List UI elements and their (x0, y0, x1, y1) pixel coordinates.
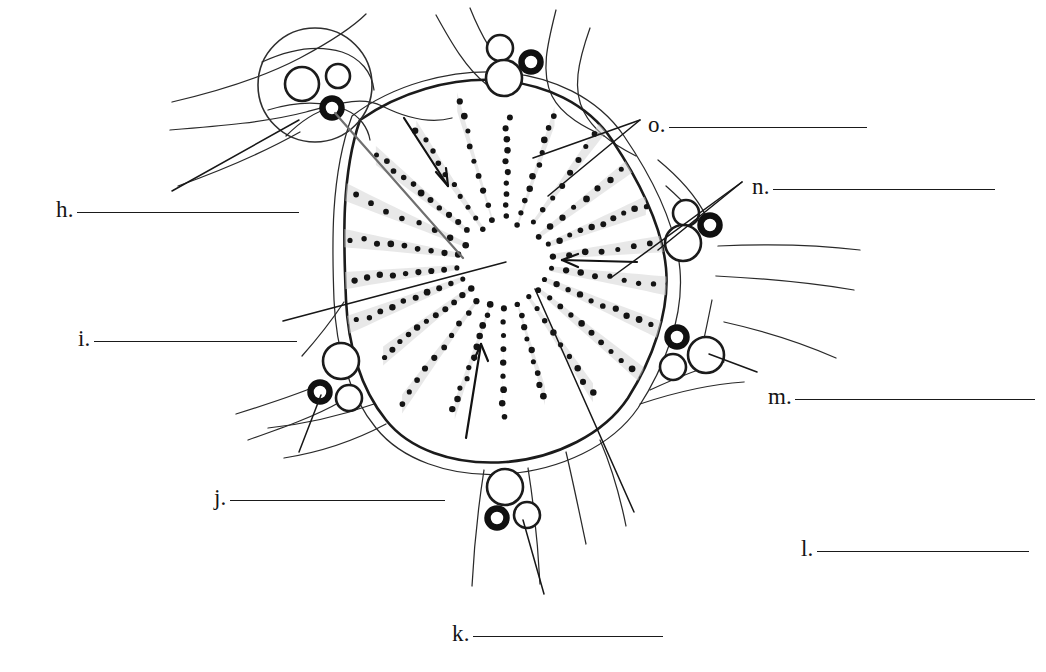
spoke-dot (427, 197, 433, 203)
spoke-dot (452, 182, 457, 187)
spoke-dot (601, 119, 607, 125)
answer-label-letter-k: k. (452, 622, 473, 645)
spoke-dot (504, 191, 510, 197)
spoke-dot (549, 266, 554, 271)
spoke-dot (441, 267, 447, 273)
answer-label-letter-h: h. (56, 198, 77, 221)
spoke-dot (633, 160, 639, 166)
spoke-dot (487, 301, 494, 308)
spoke-dot (503, 125, 509, 131)
spoke-dot (529, 347, 535, 353)
spoke-dot (451, 299, 457, 305)
spoke-dot (402, 243, 408, 249)
spoke-dot (636, 316, 643, 323)
spoke-dot (468, 285, 474, 291)
spoke-dot (526, 294, 531, 299)
spoke-dot (515, 302, 520, 307)
spoke-dot (629, 365, 636, 372)
spoke-dot (442, 306, 448, 312)
answer-label-letter-n: n. (752, 175, 773, 198)
spoke-dot (471, 159, 476, 164)
answer-blank-o[interactable] (669, 127, 867, 128)
spoke-dot (582, 248, 589, 255)
answer-label-letter-o: o. (648, 113, 669, 136)
answer-blank-j[interactable] (230, 500, 445, 501)
spoke-dot (479, 322, 486, 329)
spoke-dot (403, 271, 408, 276)
answer-label-letter-i: i. (78, 327, 94, 350)
spoke-dot (368, 200, 374, 206)
spoke-dot (583, 144, 588, 149)
spoke-dot (529, 173, 536, 180)
spoke-dot (397, 339, 402, 344)
spoke-dot (608, 349, 613, 354)
spoke-dot (648, 322, 653, 327)
spoke-dot (540, 393, 547, 400)
spoke-dot (466, 310, 472, 316)
spoke-dot (486, 202, 492, 208)
spoke-dot (501, 305, 507, 311)
spoke-haze (549, 196, 646, 247)
spoke-dot (600, 221, 606, 227)
spoke-dot (536, 234, 542, 240)
spoke-dot (454, 265, 459, 270)
spoke-dot (535, 370, 541, 376)
spoke-dot (389, 304, 395, 310)
spoke-dot (480, 226, 485, 231)
spoke-dot (547, 223, 554, 230)
spoke-dot (333, 235, 339, 241)
answer-blank-i[interactable] (94, 341, 297, 342)
spoke-dot (384, 158, 390, 164)
spoke-dot (571, 205, 576, 210)
spoke-dot (454, 396, 461, 403)
spoke-dot (457, 98, 463, 104)
spoke-dot (361, 236, 366, 241)
spoke-dot (339, 280, 345, 286)
answer-label-m: m. (768, 385, 1035, 408)
spoke-dot (364, 274, 370, 280)
spoke-dot (422, 365, 428, 371)
spoke-dot (567, 170, 573, 176)
answer-blank-h[interactable] (77, 212, 299, 213)
spoke-dot (367, 315, 372, 320)
spoke-dot (446, 212, 452, 218)
spoke-dot (460, 277, 465, 282)
spoke-dot (436, 160, 442, 166)
spoke-dot (503, 202, 508, 207)
spoke-dot (489, 217, 495, 223)
spoke-dot (465, 128, 470, 133)
spoke-dot (431, 355, 437, 361)
spoke-dot (563, 267, 569, 273)
spoke-dot (541, 137, 548, 144)
spoke-dot (449, 406, 455, 412)
answer-blank-l[interactable] (817, 551, 1029, 552)
spoke-dot (428, 248, 433, 253)
spoke-dot (567, 354, 572, 359)
answer-label-i: i. (78, 327, 297, 350)
spoke-dot (414, 377, 420, 383)
spoke-dot (574, 365, 580, 371)
spoke-dot (594, 185, 600, 191)
spoke-dot (526, 186, 533, 193)
spoke-dot (615, 247, 620, 252)
spoke-dot (537, 162, 543, 168)
spoke-dot (389, 347, 395, 353)
spoke-dot (485, 313, 490, 318)
answer-blank-k[interactable] (473, 636, 663, 637)
answer-blank-m[interactable] (795, 399, 1035, 400)
spoke-dot (613, 306, 619, 312)
spoke-dot (521, 324, 527, 330)
answer-label-h: h. (56, 198, 299, 221)
spoke-dot (588, 298, 593, 303)
spoke-dot (565, 287, 570, 292)
spoke-dot (391, 168, 397, 174)
spoke-dot (436, 285, 442, 291)
answer-label-letter-l: l. (801, 537, 817, 560)
answer-blank-n[interactable] (773, 189, 995, 190)
spoke-dot (415, 246, 421, 252)
spoke-dot (456, 321, 462, 327)
answer-label-n: n. (752, 175, 995, 198)
spoke-dot (578, 320, 585, 327)
spoke-dot (441, 250, 447, 256)
spoke-dot (535, 306, 540, 311)
